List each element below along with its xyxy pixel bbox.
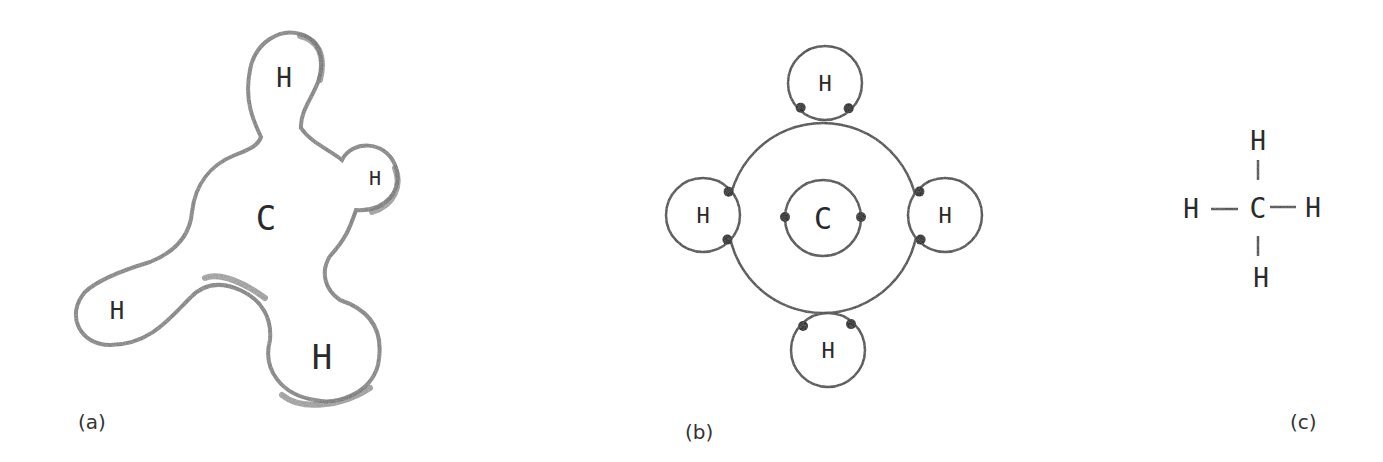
panel-label-b: (b) bbox=[685, 420, 713, 444]
atom-h-4: H bbox=[821, 338, 834, 363]
atom-h-left: H bbox=[1183, 194, 1199, 224]
inner-electron bbox=[856, 212, 866, 222]
panel-c-atoms: H C H H H bbox=[1183, 126, 1321, 293]
atom-h-3: H bbox=[110, 297, 124, 325]
cloud-shadow bbox=[205, 36, 398, 405]
atom-h-1: H bbox=[276, 63, 292, 93]
shared-electron bbox=[916, 235, 926, 245]
shared-electron bbox=[798, 321, 808, 331]
shared-electron bbox=[724, 187, 734, 197]
methane-diagram: CHHHH CHHHH H C H H H bbox=[0, 0, 1383, 462]
shared-electron bbox=[844, 103, 854, 113]
inner-electron bbox=[780, 212, 790, 222]
panel-a-cloud bbox=[76, 33, 398, 405]
atom-h-bottom: H bbox=[1253, 263, 1269, 293]
atom-c-0: C bbox=[256, 198, 276, 238]
shared-electron bbox=[846, 319, 856, 329]
atom-c-center: C bbox=[1250, 192, 1267, 225]
shared-electron bbox=[914, 187, 924, 197]
atom-h-3: H bbox=[938, 203, 951, 228]
panel-label-a: (a) bbox=[78, 410, 106, 434]
shared-electron bbox=[722, 235, 732, 245]
atom-h-2: H bbox=[369, 166, 381, 190]
atom-h-right: H bbox=[1305, 193, 1321, 223]
cloud-outline bbox=[76, 33, 398, 402]
atom-c-0: C bbox=[814, 201, 832, 236]
panel-a-atoms: CHHHH bbox=[110, 63, 381, 377]
atom-h-4: H bbox=[312, 337, 332, 377]
atom-h-top: H bbox=[1250, 126, 1266, 156]
panel-label-c: (c) bbox=[1290, 410, 1317, 434]
atom-h-2: H bbox=[696, 203, 709, 228]
shared-electron bbox=[796, 103, 806, 113]
atom-h-1: H bbox=[818, 71, 831, 96]
